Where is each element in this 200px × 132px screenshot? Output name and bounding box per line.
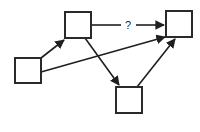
node-c (166, 11, 192, 37)
edge-d-to-c (137, 39, 175, 87)
node-b (65, 12, 91, 38)
edge-a-to-c (41, 37, 165, 72)
node-d (116, 87, 142, 113)
diagram-canvas: ? (0, 0, 200, 132)
edge-b-to-d (85, 38, 119, 85)
edge-a-to-b (41, 40, 64, 58)
edge-label-unknown: ? (125, 19, 131, 31)
node-a (15, 58, 41, 83)
